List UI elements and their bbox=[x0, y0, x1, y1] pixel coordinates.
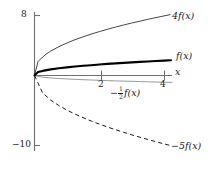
curve-f-x bbox=[35, 60, 172, 75]
x-axis-tick-label-4: 4 bbox=[160, 80, 166, 89]
fraction-denominator: 2 bbox=[118, 94, 123, 101]
curve-4-f-x bbox=[35, 15, 171, 76]
x-axis-tick-label-2: 2 bbox=[98, 80, 104, 89]
curve-label-neg-5-f-x: −5f(x) bbox=[171, 141, 201, 151]
function-notation: f(x) bbox=[124, 87, 140, 98]
y-axis-tick-label-8: 8 bbox=[21, 10, 27, 19]
math-graph-figure: 8 −10 2 4 x 4f(x) f(x) −12f(x) −5f(x) bbox=[0, 0, 215, 169]
y-axis-tick-label-neg10: −10 bbox=[12, 140, 31, 149]
curve-label-4-f-x: 4f(x) bbox=[172, 11, 194, 21]
x-axis-label: x bbox=[175, 67, 180, 77]
minus-sign: − bbox=[110, 87, 118, 98]
curve-label-f-x: f(x) bbox=[176, 51, 192, 61]
fraction-one-half: 12 bbox=[118, 86, 123, 100]
curve-label-neg-half-f-x: −12f(x) bbox=[110, 86, 140, 100]
